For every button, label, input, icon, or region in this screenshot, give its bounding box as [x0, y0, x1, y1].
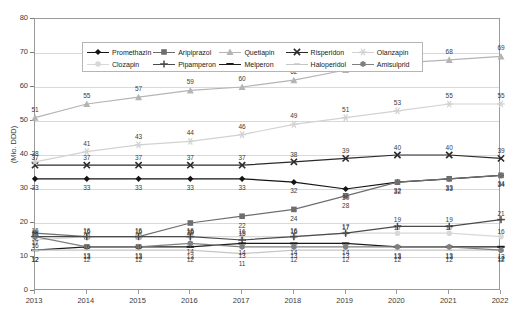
- olanzapin-marker-icon: [352, 47, 374, 57]
- legend-item-quetiapin[interactable]: Quetiapin: [219, 47, 285, 57]
- legend-item-promethazin[interactable]: Promethazin: [87, 47, 153, 57]
- data-label: 16: [83, 227, 90, 234]
- data-label: 16: [31, 242, 38, 249]
- data-label: 30: [342, 194, 349, 201]
- legend-item-amisulprid[interactable]: Amisulprid: [352, 59, 418, 69]
- data-label: 17: [446, 224, 453, 231]
- data-label: 21: [497, 210, 504, 217]
- data-label: 16: [497, 228, 504, 235]
- x-tick-label: 2021: [428, 296, 468, 305]
- legend-item-aripiprazol[interactable]: Aripiprazol: [153, 47, 219, 57]
- y-tick-label: 50: [2, 115, 28, 124]
- data-label: 33: [31, 184, 38, 191]
- legend-label: Clozapin: [112, 61, 139, 68]
- series-line-olanzapin: [35, 104, 501, 162]
- data-label: 40: [394, 144, 401, 151]
- data-label: 32: [394, 188, 401, 195]
- data-point-circle: [95, 61, 101, 67]
- x-tick-label: 2013: [14, 296, 54, 305]
- data-label: 13: [290, 252, 297, 259]
- data-label: 49: [290, 112, 297, 119]
- melperon-marker-icon: [219, 59, 241, 69]
- data-label: 16: [31, 227, 38, 234]
- data-label: 51: [342, 106, 349, 113]
- legend-item-risperidon[interactable]: Risperidon: [286, 47, 352, 57]
- series-line-risperidon: [35, 155, 501, 165]
- legend-item-olanzapin[interactable]: Olanzapin: [352, 47, 418, 57]
- x-tick-label: 2019: [325, 296, 365, 305]
- data-point-star: [497, 101, 504, 107]
- legend-label: Olanzapin: [377, 49, 409, 56]
- data-point-circle: [395, 230, 401, 236]
- data-point-dash: [227, 63, 234, 65]
- data-point-star: [290, 121, 297, 127]
- risperidon-marker-icon: [286, 47, 308, 57]
- legend-item-haloperidol[interactable]: Haloperidol: [286, 59, 352, 69]
- legend-item-clozapin[interactable]: Clozapin: [87, 59, 153, 69]
- data-label: 17: [342, 223, 349, 230]
- data-label: 28: [342, 202, 349, 209]
- data-label: 13: [394, 252, 401, 259]
- data-point-square: [239, 213, 245, 219]
- data-point-diamond: [187, 176, 193, 182]
- data-label: 37: [83, 154, 90, 161]
- legend-label: Pipamperon: [178, 61, 216, 68]
- data-label: 17: [394, 224, 401, 231]
- data-label: 13: [342, 252, 349, 259]
- legend-label: Risperidon: [311, 49, 344, 56]
- data-point-plus: [160, 60, 168, 67]
- promethazin-marker-icon: [87, 47, 109, 57]
- data-label: 13: [83, 252, 90, 259]
- data-label: 16: [135, 227, 142, 234]
- data-label: 51: [31, 106, 38, 113]
- data-point-star: [359, 49, 366, 55]
- data-label: 24: [290, 215, 297, 222]
- data-label: 11: [239, 260, 246, 267]
- amisulprid-marker-icon: [352, 59, 374, 69]
- legend-label: Aripiprazol: [178, 49, 211, 56]
- data-label: 14: [187, 248, 194, 255]
- data-point-hex: [395, 244, 400, 250]
- data-point-star: [394, 108, 401, 114]
- data-point-star: [135, 142, 142, 148]
- data-point-diamond: [239, 176, 245, 182]
- data-point-plus: [497, 216, 505, 223]
- quetiapin-marker-icon: [219, 47, 241, 57]
- data-label: 16: [83, 243, 90, 250]
- data-label: 34: [497, 181, 504, 188]
- legend-item-pipamperon[interactable]: Pipamperon: [153, 59, 219, 69]
- data-point-triangle: [227, 49, 234, 56]
- data-label: 55: [497, 92, 504, 99]
- data-point-square: [161, 49, 167, 55]
- data-label: 39: [342, 147, 349, 154]
- data-label: 38: [290, 151, 297, 158]
- data-label: 68: [446, 48, 453, 55]
- data-label: 12: [31, 256, 38, 263]
- data-label: 60: [238, 75, 245, 82]
- data-point-line: [294, 63, 300, 64]
- legend-label: Melperon: [244, 61, 273, 68]
- legend-item-melperon[interactable]: Melperon: [219, 59, 285, 69]
- data-point-diamond: [95, 49, 101, 55]
- data-label: 16: [135, 243, 142, 250]
- data-label: 12: [187, 256, 194, 263]
- data-label: 33: [187, 184, 194, 191]
- data-label: 13: [446, 252, 453, 259]
- data-label: 16: [290, 227, 297, 234]
- data-label: 43: [135, 133, 142, 140]
- data-label: 33: [238, 184, 245, 191]
- data-label: 57: [135, 85, 142, 92]
- data-point-star: [342, 114, 349, 120]
- data-point-star: [187, 138, 194, 144]
- x-tick-label: 2018: [273, 296, 313, 305]
- data-label: 55: [446, 92, 453, 99]
- data-label: 59: [187, 78, 194, 85]
- data-label: 33: [135, 184, 142, 191]
- data-point-diamond: [32, 176, 38, 182]
- data-label: 19: [446, 216, 453, 223]
- data-label: 39: [497, 147, 504, 154]
- clozapin-marker-icon: [87, 59, 109, 69]
- data-label: 38: [31, 150, 38, 157]
- data-label: 37: [187, 154, 194, 161]
- x-tick-label: 2020: [376, 296, 416, 305]
